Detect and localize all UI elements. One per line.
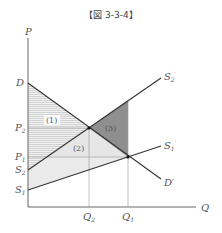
- s2-end-label: S2′: [164, 70, 177, 83]
- s2-start-label: S2: [15, 164, 26, 176]
- demand-start-label: D: [15, 77, 24, 88]
- p1-label: P1: [14, 151, 26, 163]
- s1-start-label: S1: [15, 184, 26, 196]
- y-axis-label: P: [24, 26, 32, 37]
- q2-label: Q2: [83, 211, 95, 223]
- equilibrium-point-1: [126, 155, 129, 158]
- supply-demand-diagram: P Q D P2 P1 S2 S1 S2′ S1′ D′ Q2 Q1 (1) (…: [0, 0, 222, 233]
- region-1-label: (1): [46, 116, 57, 125]
- q1-label: Q1: [122, 211, 134, 223]
- s1-end-label: S1′: [164, 139, 177, 152]
- p2-label: P2: [14, 122, 26, 134]
- x-axis-label: Q: [201, 202, 209, 213]
- region-3-label: (3): [105, 124, 116, 133]
- demand-end-label: D′: [163, 177, 175, 188]
- region-2-label: (2): [73, 144, 84, 153]
- equilibrium-point-2: [87, 126, 90, 129]
